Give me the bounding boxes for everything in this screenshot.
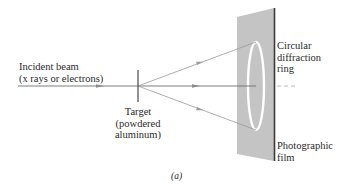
photographic-film-label: Photographic film	[277, 140, 333, 163]
film-label-line1: Photographic	[277, 140, 333, 152]
diffraction-ring-label: Circular diffraction ring	[277, 40, 321, 75]
ring-label-line2: diffraction	[277, 52, 321, 64]
incident-beam-label-line2: (x rays or electrons)	[19, 73, 103, 85]
incident-beam-label-line1: Incident beam	[19, 61, 103, 73]
incident-beam-label: Incident beam (x rays or electrons)	[19, 61, 103, 84]
lower-ray-arrow-icon	[196, 107, 204, 110]
photographic-film-plate	[237, 8, 274, 161]
upper-ray-arrow-icon	[196, 62, 204, 65]
target-label-line2: (powdered	[108, 118, 168, 130]
transmitted-beam-arrow-icon	[192, 84, 200, 88]
incident-beam-arrow-icon	[96, 84, 104, 88]
figure-caption: (a)	[171, 171, 182, 183]
target-label: Target (powdered aluminum)	[108, 106, 168, 141]
ring-label-line1: Circular	[277, 40, 321, 52]
film-label-line2: film	[277, 152, 333, 164]
target-label-line1: Target	[108, 106, 168, 118]
target-label-line3: aluminum)	[108, 129, 168, 141]
ring-label-line3: ring	[277, 63, 321, 75]
